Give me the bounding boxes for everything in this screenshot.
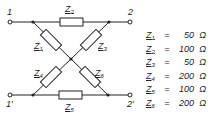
junction-bottom-left: [31, 93, 34, 96]
terminal-2: [128, 20, 132, 24]
value-row-z3: Z3 = 50 Ω: [146, 57, 206, 71]
terminal-label-1: 1: [7, 8, 12, 17]
terminal-label-2-prime: 2': [127, 100, 134, 109]
junction-bottom-right: [106, 93, 109, 96]
junction-top-right: [107, 20, 110, 23]
z3-label: Z3: [98, 42, 107, 54]
terminal-2-prime: [128, 93, 132, 97]
z2-resistor: [60, 18, 83, 26]
impedance-values-list: Z1 = 50 Ω Z2 = 100 Ω Z3 = 50 Ω Z4 = 200 …: [146, 30, 206, 111]
value-row-z5: Z5 = 100 Ω: [146, 84, 206, 98]
z5-resistor: [59, 91, 82, 99]
value-row-z2: Z2 = 100 Ω: [146, 44, 206, 58]
value-row-z4: Z4 = 200 Ω: [146, 71, 206, 85]
z2-label: Z2: [65, 5, 74, 17]
value-row-z6: Z6 = 200 Ω: [146, 98, 206, 112]
z1-label: Z1: [34, 42, 43, 54]
z5-label: Z5: [65, 103, 74, 115]
z1-resistor: [40, 29, 61, 50]
junction-center: [69, 57, 72, 60]
value-row-z1: Z1 = 50 Ω: [146, 30, 206, 44]
z4-label: Z4: [34, 69, 43, 81]
terminal-label-2: 2: [128, 8, 133, 17]
z6-label: Z6: [95, 69, 104, 81]
terminal-label-1-prime: 1': [6, 100, 13, 109]
terminal-1-prime: [8, 93, 12, 97]
terminal-1: [8, 20, 12, 24]
junction-top-left: [31, 20, 34, 23]
z4-resistor: [40, 66, 61, 87]
